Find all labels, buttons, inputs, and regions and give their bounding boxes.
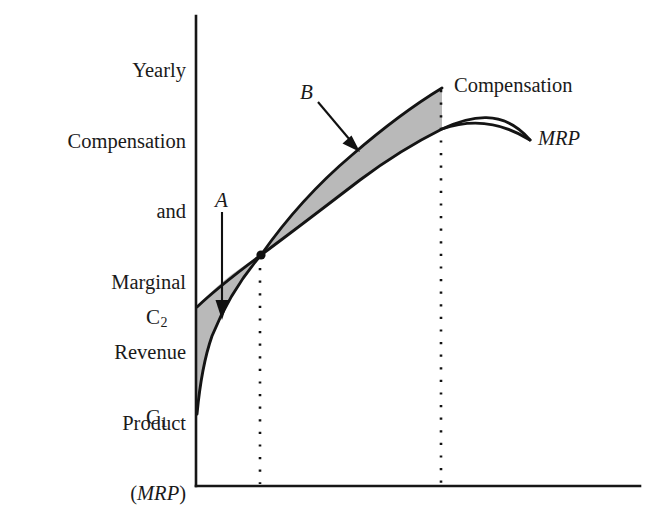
region-a-label: A [215,188,228,213]
c2-base: C [146,305,160,329]
region-b-arrow [318,102,360,152]
compensation-curve-label: Compensation [454,73,572,97]
region-a-arrow [216,212,229,320]
y-axis-label-line: Revenue [0,341,186,365]
y-axis-label-line-mrp: (MRP) [0,482,186,506]
y-axis-label: Yearly Compensation and Marginal Revenue… [0,12,186,509]
mrp-curve-tail [442,123,530,140]
mrp-curve-label: MRP [538,126,580,150]
y-axis-label-line: Compensation [0,130,186,154]
c1-subscript: 1 [160,415,168,430]
y-axis-label-line: Marginal [0,271,186,295]
crossover-point-dot [256,250,265,259]
mrp-abbreviation: MRP [137,482,179,504]
region-b-label: B [300,80,313,105]
c1-base: C [146,405,160,429]
y-tick-label-c1: C1 [146,405,168,432]
c2-subscript: 2 [160,315,168,330]
y-axis-label-line: Yearly [0,59,186,83]
shaded-region-b [261,88,442,255]
y-tick-label-c2: C2 [146,305,168,332]
paren-close: ) [179,482,186,504]
y-axis-label-line: and [0,200,186,224]
